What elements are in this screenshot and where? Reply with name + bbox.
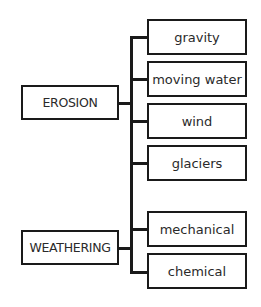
node-erosion-label: EROSION [42, 95, 97, 110]
node-weathering: WEATHERING [21, 230, 119, 265]
connector-wind [130, 120, 148, 123]
node-wind-label: wind [182, 114, 213, 129]
node-glaciers-label: glaciers [172, 156, 223, 171]
node-mechanical-label: mechanical [160, 222, 235, 237]
node-moving-water: moving water [147, 61, 247, 97]
node-chemical: chemical [147, 253, 247, 289]
connector-mechanical [130, 228, 148, 231]
node-moving-water-label: moving water [152, 72, 242, 87]
node-gravity: gravity [147, 19, 247, 55]
connector-erosion [118, 102, 132, 105]
node-weathering-label: WEATHERING [29, 240, 110, 255]
connector-moving-water [130, 78, 148, 81]
node-wind: wind [147, 103, 247, 139]
node-mechanical: mechanical [147, 211, 247, 247]
node-glaciers: glaciers [147, 145, 247, 181]
node-erosion: EROSION [21, 85, 119, 120]
connector-weathering [118, 247, 132, 250]
node-gravity-label: gravity [174, 30, 220, 45]
connector-spine [130, 36, 133, 273]
node-chemical-label: chemical [168, 264, 226, 279]
connector-chemical [130, 271, 148, 274]
erosion-weathering-diagram: EROSION WEATHERING gravity moving water … [0, 0, 261, 307]
connector-gravity [130, 36, 148, 39]
connector-glaciers [130, 162, 148, 165]
